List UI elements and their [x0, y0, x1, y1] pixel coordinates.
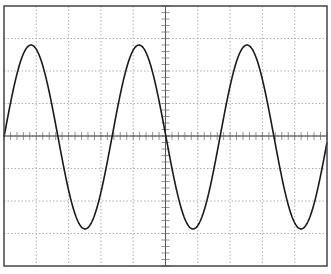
oscilloscope-graticule [0, 0, 331, 274]
